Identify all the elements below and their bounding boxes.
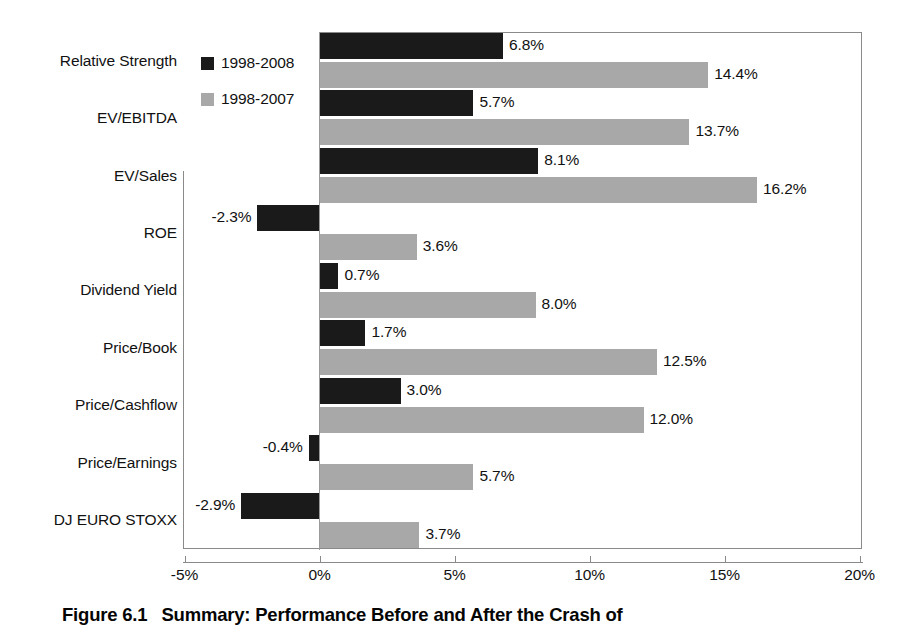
- bar-value-label: 5.7%: [479, 89, 514, 115]
- x-axis-tick-label: 5%: [443, 566, 465, 584]
- bar-row: DJ EURO STOXX-2.9%3.7%: [0, 492, 912, 549]
- x-axis-tick-label: 0%: [308, 566, 330, 584]
- legend-item-1998-2007: 1998-2007: [201, 90, 294, 108]
- figure-caption-text: Summary: Performance Before and After th…: [161, 604, 622, 625]
- bar-value-label: -2.9%: [195, 492, 235, 518]
- bar-value-label: 3.6%: [423, 233, 458, 259]
- bar-light: [320, 292, 536, 318]
- bar-value-label: 12.5%: [663, 348, 706, 374]
- category-label: Price/Book: [103, 339, 177, 357]
- bar-value-label: 3.7%: [425, 521, 460, 547]
- figure-caption: Figure 6.1Summary: Performance Before an…: [62, 604, 623, 626]
- bar-light: [320, 349, 658, 375]
- x-axis-tick: [320, 556, 321, 563]
- bar-dark: [320, 33, 504, 59]
- category-label: EV/EBITDA: [97, 109, 177, 127]
- bar-row: Price/Book1.7%12.5%: [0, 319, 912, 376]
- bar-value-label: 13.7%: [695, 118, 738, 144]
- x-axis-tick-label: -5%: [171, 566, 198, 584]
- bar-value-label: 12.0%: [650, 406, 693, 432]
- bar-dark: [320, 148, 539, 174]
- bar-value-label: -2.3%: [211, 204, 251, 230]
- bar-value-label: 3.0%: [407, 377, 442, 403]
- category-label: Price/Earnings: [78, 454, 177, 472]
- bar-row: EV/EBITDA5.7%13.7%: [0, 89, 912, 146]
- x-axis-line: [183, 562, 863, 563]
- bar-dark: [241, 493, 319, 519]
- category-label: EV/Sales: [114, 167, 177, 185]
- x-axis-tick: [455, 556, 456, 563]
- bar-value-label: 5.7%: [479, 463, 514, 489]
- figure-number: Figure 6.1: [62, 604, 147, 625]
- x-axis-tick-label: 10%: [574, 566, 605, 584]
- category-label: Price/Cashflow: [75, 396, 177, 414]
- bar-light: [320, 407, 644, 433]
- x-axis-tick: [590, 556, 591, 563]
- bar-value-label: 0.7%: [344, 262, 379, 288]
- x-axis-tick-label: 15%: [709, 566, 740, 584]
- x-axis-tick: [725, 556, 726, 563]
- bar-light: [320, 234, 417, 260]
- x-axis-tick: [185, 556, 186, 563]
- bar-value-label: 8.1%: [544, 147, 579, 173]
- bar-row: ROE-2.3%3.6%: [0, 204, 912, 261]
- category-label: Dividend Yield: [80, 281, 177, 299]
- category-label: ROE: [144, 224, 177, 242]
- bar-row: EV/Sales8.1%16.2%: [0, 147, 912, 204]
- figure-container: Relative Strength6.8%14.4%EV/EBITDA5.7%1…: [0, 0, 912, 634]
- bar-value-label: 14.4%: [714, 61, 757, 87]
- bar-dark: [320, 378, 401, 404]
- category-label: DJ EURO STOXX: [54, 511, 177, 529]
- bar-value-label: 6.8%: [509, 32, 544, 58]
- bar-dark: [320, 90, 474, 116]
- bar-value-label: 16.2%: [763, 176, 806, 202]
- bar-row: Dividend Yield0.7%8.0%: [0, 262, 912, 319]
- bar-dark: [320, 320, 366, 346]
- legend-label-1998-2008: 1998-2008: [221, 54, 294, 72]
- legend-item-1998-2008: 1998-2008: [201, 54, 294, 72]
- chart-legend: 1998-2008 1998-2007: [183, 32, 320, 171]
- bar-row: Price/Earnings-0.4%5.7%: [0, 434, 912, 491]
- bar-dark: [309, 435, 320, 461]
- legend-label-1998-2007: 1998-2007: [221, 90, 294, 108]
- bar-light: [320, 119, 690, 145]
- bar-row: Price/Cashflow3.0%12.0%: [0, 377, 912, 434]
- bar-light: [320, 464, 474, 490]
- bar-light: [320, 62, 709, 88]
- bar-value-label: -0.4%: [263, 434, 303, 460]
- bar-light: [320, 522, 420, 548]
- bar-value-label: 8.0%: [542, 291, 577, 317]
- bar-dark: [320, 263, 339, 289]
- legend-swatch-icon-dark: [201, 57, 214, 70]
- category-label: Relative Strength: [60, 52, 177, 70]
- bar-dark: [257, 205, 319, 231]
- bar-value-label: 1.7%: [371, 319, 406, 345]
- x-axis-tick: [860, 556, 861, 563]
- x-axis-tick-label: 20%: [844, 566, 875, 584]
- bar-light: [320, 177, 757, 203]
- legend-swatch-icon-light: [201, 93, 214, 106]
- bar-row: Relative Strength6.8%14.4%: [0, 32, 912, 89]
